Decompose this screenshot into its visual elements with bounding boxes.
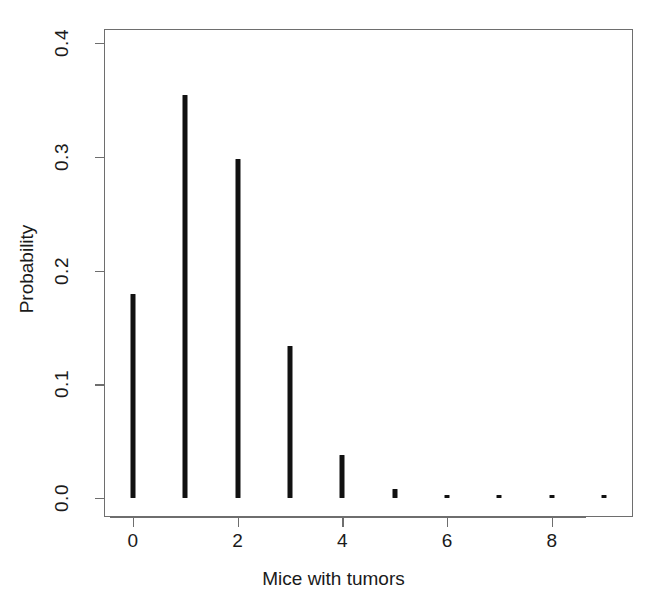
x-tick-label-4: 8 xyxy=(532,530,572,552)
x-tick-2 xyxy=(342,517,343,527)
y-tick-0 xyxy=(95,498,104,499)
y-axis-line xyxy=(104,43,105,498)
y-tick-label-1: 0.1 xyxy=(51,364,73,404)
bar-1 xyxy=(183,95,188,498)
y-tick-label-2: 0.2 xyxy=(51,251,73,291)
x-axis-title: Mice with tumors xyxy=(0,568,667,590)
bar-2 xyxy=(235,159,240,498)
x-tick-label-1: 2 xyxy=(218,530,258,552)
x-tick-label-0: 0 xyxy=(113,530,153,552)
y-tick-label-4: 0.4 xyxy=(51,23,73,63)
y-tick-label-wrap-4: 0.4 xyxy=(42,32,82,54)
y-tick-label-wrap-0: 0.0 xyxy=(42,487,82,509)
x-tick-3 xyxy=(447,517,448,527)
bar-4 xyxy=(340,455,345,498)
y-tick-1 xyxy=(95,384,104,385)
y-tick-4 xyxy=(95,43,104,44)
bar-3 xyxy=(287,346,292,498)
bar-5 xyxy=(392,489,397,498)
y-tick-label-wrap-2: 0.2 xyxy=(42,260,82,282)
x-tick-label-2: 4 xyxy=(322,530,362,552)
bar-7 xyxy=(497,495,502,499)
y-tick-label-wrap-1: 0.1 xyxy=(42,373,82,395)
probability-distribution-chart: 0.00.10.20.30.4 02468 Mice with tumors P… xyxy=(0,0,667,612)
bar-6 xyxy=(445,495,450,499)
x-tick-4 xyxy=(552,517,553,527)
bar-8 xyxy=(549,495,554,499)
y-tick-label-0: 0.0 xyxy=(51,478,73,518)
x-axis-line xyxy=(110,517,586,518)
bar-0 xyxy=(130,294,135,498)
bar-9 xyxy=(602,495,607,499)
y-tick-2 xyxy=(95,271,104,272)
x-tick-0 xyxy=(133,517,134,527)
y-tick-label-3: 0.3 xyxy=(51,137,73,177)
x-tick-1 xyxy=(238,517,239,527)
plot-data-area xyxy=(104,29,633,517)
y-tick-3 xyxy=(95,157,104,158)
x-tick-label-3: 6 xyxy=(427,530,467,552)
y-tick-label-wrap-3: 0.3 xyxy=(42,146,82,168)
y-axis-title: Probability xyxy=(16,179,38,359)
